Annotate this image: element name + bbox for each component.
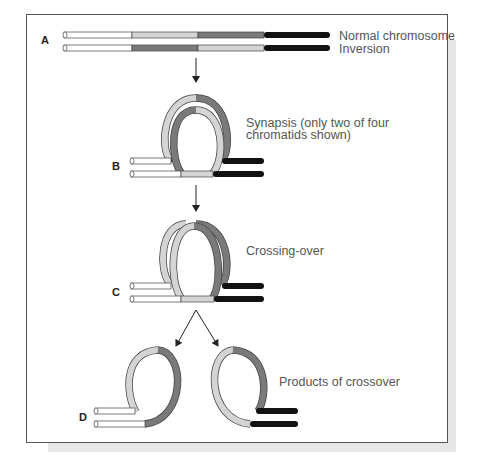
arrow-c-to-d-left: [176, 310, 196, 346]
caption-crossing-over: Crossing-over: [246, 244, 324, 258]
caption-products-of-crossover: Products of crossover: [279, 375, 400, 389]
caption-synapsis-line2: chromatids shown): [246, 128, 351, 142]
arrow-c-to-d-right: [196, 310, 218, 346]
caption-inversion: Inversion: [339, 42, 390, 56]
stage-label-c: C: [112, 286, 120, 298]
stage-a: A Normal chromosome Inversion: [41, 29, 455, 56]
inversion-crossover-diagram: A Normal chromosome Inversion B: [0, 0, 478, 469]
stage-d: D Products of crossover: [79, 350, 400, 427]
product-left: [94, 350, 178, 427]
stage-b: B Synapsis (only two of four chromatids …: [112, 98, 389, 177]
inversion-chromosome: [63, 45, 330, 51]
normal-chromosome: [63, 32, 330, 38]
stage-label-a: A: [41, 34, 49, 46]
stage-label-b: B: [112, 160, 120, 172]
stage-label-d: D: [79, 411, 87, 423]
caption-normal-chromosome: Normal chromosome: [339, 29, 455, 43]
stage-c: C Crossing-over: [112, 224, 324, 302]
